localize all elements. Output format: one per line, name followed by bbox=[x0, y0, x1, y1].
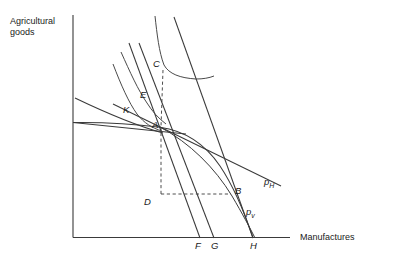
point-label-B: B bbox=[235, 185, 241, 196]
budget-line-F bbox=[129, 43, 200, 238]
price-line-pH bbox=[113, 104, 281, 186]
ppf-curve bbox=[73, 122, 253, 238]
pv-subscript: v bbox=[251, 212, 255, 219]
y-axis-label-line2: goods bbox=[10, 27, 35, 37]
dashed-vertical-C-A bbox=[161, 70, 163, 127]
y-axis-label-line1: Agricultural bbox=[10, 16, 55, 26]
x-axis-label: Manufactures bbox=[300, 232, 355, 243]
price-line-label-pv: pv bbox=[246, 206, 255, 219]
pH-subscript: H bbox=[269, 182, 274, 189]
point-label-F: F bbox=[195, 240, 201, 251]
point-label-E: E bbox=[140, 89, 146, 100]
point-label-C: C bbox=[153, 58, 160, 69]
point-label-A: A bbox=[152, 119, 158, 130]
price-line-label-pH: pH bbox=[264, 176, 274, 189]
budget-line-G bbox=[139, 43, 214, 238]
point-label-D: D bbox=[144, 196, 151, 207]
point-label-G: G bbox=[211, 240, 218, 251]
y-axis-label: Agricultural goods bbox=[10, 16, 55, 38]
point-label-K: K bbox=[123, 104, 129, 115]
economics-diagram: Agricultural goods Manufactures C E K A … bbox=[0, 0, 399, 270]
ray-from-axis-left bbox=[75, 98, 163, 133]
point-label-H: H bbox=[250, 240, 257, 251]
diagram-canvas bbox=[0, 0, 399, 270]
price-line-through-C bbox=[174, 17, 253, 238]
